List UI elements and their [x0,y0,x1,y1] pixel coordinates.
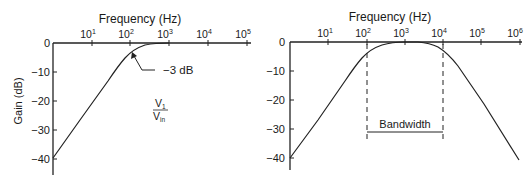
right-response-curve [290,42,519,160]
minus-3db-annotation: −3 dB [131,52,194,76]
svg-text:−30: −30 [31,124,50,136]
bandwidth-label: Bandwidth [379,118,430,130]
svg-text:105: 105 [235,28,251,40]
svg-text:−3 dB: −3 dB [163,64,194,76]
left-y-tick-labels: 0 −10 −20 −30 −40 [31,37,50,165]
svg-text:0: 0 [44,37,50,49]
right-x-axis-title: Frequency (Hz) [349,10,432,24]
arrow-head-icon [131,52,137,59]
svg-text:104: 104 [431,27,447,39]
svg-text:V1: V1 [155,97,166,110]
svg-text:102: 102 [118,28,134,40]
figure: Frequency (Hz) 101 102 103 104 105 0 [0,0,527,175]
svg-text:101: 101 [317,27,333,39]
svg-text:Vin: Vin [153,110,165,123]
transfer-function-label: V1 Vin [153,97,168,123]
svg-text:0: 0 [279,36,285,48]
svg-text:101: 101 [80,28,96,40]
svg-text:−20: −20 [266,94,285,106]
svg-text:106: 106 [507,27,523,39]
right-chart: Frequency (Hz) 101 102 103 104 105 106 0 [266,10,523,170]
left-y-axis-title: Gain (dB) [12,77,24,124]
svg-text:−40: −40 [31,153,50,165]
svg-text:102: 102 [355,27,371,39]
svg-text:104: 104 [196,28,212,40]
svg-text:−40: −40 [266,152,285,164]
svg-text:105: 105 [469,27,485,39]
svg-text:103: 103 [157,28,173,40]
svg-text:103: 103 [393,27,409,39]
left-chart: Frequency (Hz) 101 102 103 104 105 0 [12,12,251,175]
svg-text:−10: −10 [31,66,50,78]
right-x-tick-labels: 101 102 103 104 105 106 [317,27,523,39]
left-x-tick-labels: 101 102 103 104 105 [80,28,251,40]
svg-text:−30: −30 [266,123,285,135]
svg-text:−20: −20 [31,95,50,107]
right-y-tick-labels: 0 −10 −20 −30 −40 [266,36,285,164]
svg-text:−10: −10 [266,65,285,77]
left-x-axis-title: Frequency (Hz) [99,12,182,26]
left-response-curve [53,43,169,158]
